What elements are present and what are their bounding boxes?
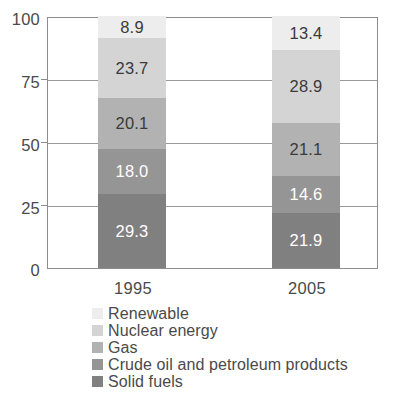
- legend-label: Crude oil and petroleum products: [108, 357, 348, 373]
- legend-swatch-icon: [92, 359, 103, 370]
- legend-item-crude-oil[interactable]: Crude oil and petroleum products: [92, 356, 348, 373]
- segment-value-label: 8.9: [120, 19, 144, 36]
- segment-value-label: 13.4: [290, 25, 323, 42]
- segment-2005-crude-oil[interactable]: 14.6: [272, 176, 340, 213]
- legend-item-gas[interactable]: Gas: [92, 339, 348, 356]
- legend-swatch-icon: [92, 342, 103, 353]
- stacked-bar-chart: 100 75 50 25 0 29.3 18.0 20.1 23.7 8.9: [0, 0, 396, 395]
- segment-value-label: 20.1: [116, 115, 149, 132]
- y-axis-tick-50: 50: [0, 137, 40, 154]
- bar-2005[interactable]: 21.9 14.6 21.1 28.9 13.4: [272, 16, 340, 268]
- y-axis-tick-0: 0: [0, 262, 40, 279]
- segment-1995-gas[interactable]: 20.1: [98, 98, 166, 149]
- y-axis-tick-75: 75: [0, 74, 40, 91]
- segment-1995-renewable[interactable]: 8.9: [98, 16, 166, 38]
- segment-2005-nuclear-energy[interactable]: 28.9: [272, 50, 340, 123]
- y-axis-tick-100: 100: [0, 11, 40, 28]
- segment-2005-solid-fuels[interactable]: 21.9: [272, 213, 340, 268]
- segment-value-label: 14.6: [290, 186, 323, 203]
- bar-1995[interactable]: 29.3 18.0 20.1 23.7 8.9: [98, 16, 166, 268]
- segment-2005-gas[interactable]: 21.1: [272, 123, 340, 176]
- segment-value-label: 28.9: [290, 78, 323, 95]
- segment-1995-solid-fuels[interactable]: 29.3: [98, 194, 166, 268]
- segment-value-label: 21.1: [290, 141, 323, 158]
- x-axis-label-1995: 1995: [78, 279, 188, 298]
- segment-value-label: 29.3: [116, 223, 149, 240]
- legend-label: Solid fuels: [108, 374, 183, 390]
- segment-value-label: 18.0: [116, 163, 149, 180]
- segment-value-label: 21.9: [290, 232, 323, 249]
- y-axis-tick-25: 25: [0, 200, 40, 217]
- legend-label: Gas: [108, 340, 138, 356]
- legend-swatch-icon: [92, 376, 103, 387]
- legend-item-renewable[interactable]: Renewable: [92, 305, 348, 322]
- legend: Renewable Nuclear energy Gas Crude oil a…: [92, 305, 348, 390]
- legend-swatch-icon: [92, 308, 103, 319]
- legend-item-solid-fuels[interactable]: Solid fuels: [92, 373, 348, 390]
- x-axis-label-2005: 2005: [252, 279, 362, 298]
- segment-1995-crude-oil[interactable]: 18.0: [98, 149, 166, 194]
- segment-2005-renewable[interactable]: 13.4: [272, 16, 340, 50]
- legend-label: Nuclear energy: [108, 323, 218, 339]
- plot-area: 29.3 18.0 20.1 23.7 8.9 21.9 14.6: [47, 17, 378, 269]
- segment-1995-nuclear-energy[interactable]: 23.7: [98, 38, 166, 98]
- legend-label: Renewable: [108, 306, 189, 322]
- segment-value-label: 23.7: [116, 60, 149, 77]
- legend-swatch-icon: [92, 325, 103, 336]
- legend-item-nuclear-energy[interactable]: Nuclear energy: [92, 322, 348, 339]
